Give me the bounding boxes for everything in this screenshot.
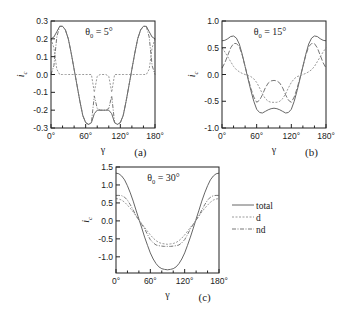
x-axis-label: γ bbox=[164, 289, 170, 300]
y-tick-label: -0.5 bbox=[204, 96, 219, 106]
panel-label: (b) bbox=[305, 146, 318, 159]
x-tick-label: 120° bbox=[112, 131, 130, 141]
series-total-line bbox=[116, 173, 219, 270]
y-tick-label: 0.0 bbox=[36, 70, 48, 80]
y-tick-label: 0.1 bbox=[36, 52, 48, 62]
series-d-line bbox=[116, 199, 219, 245]
y-axis-label: ic bbox=[186, 72, 199, 78]
y-tick-label: -0.3 bbox=[33, 123, 48, 133]
x-tick-label: 0° bbox=[112, 276, 120, 286]
x-axis-label: γ bbox=[100, 144, 106, 155]
y-tick-label: 0.2 bbox=[36, 34, 48, 44]
series-nd-line bbox=[116, 195, 219, 246]
series-total-line bbox=[222, 36, 326, 113]
y-axis-label: ic bbox=[80, 217, 93, 223]
panel-label: (c) bbox=[198, 291, 211, 304]
panel-label: (a) bbox=[134, 146, 147, 159]
y-tick-label: 0.0 bbox=[101, 216, 113, 226]
y-tick-label: 0.3 bbox=[36, 16, 48, 26]
x-axis-label: γ bbox=[271, 144, 277, 155]
x-tick-label: 180° bbox=[146, 131, 164, 141]
x-tick-label: 0° bbox=[218, 131, 226, 141]
series-d-line bbox=[222, 48, 326, 103]
y-tick-label: 1.0 bbox=[207, 16, 219, 26]
x-tick-label: 0° bbox=[47, 131, 55, 141]
x-tick-label: 60° bbox=[79, 131, 92, 141]
x-tick-label: 120° bbox=[176, 276, 194, 286]
legend: totaldnd bbox=[232, 201, 273, 235]
x-tick-label: 120° bbox=[283, 131, 301, 141]
theta-annotation: θ0 = 30° bbox=[147, 172, 180, 185]
x-tick-label: 60° bbox=[144, 276, 157, 286]
theta-annotation: θ0 = 5° bbox=[85, 26, 113, 39]
legend-label-total: total bbox=[256, 201, 273, 211]
y-tick-label: -0.5 bbox=[98, 234, 113, 244]
panel-a-chart: 0°60°120°180°-0.3-0.2-0.10.00.10.20.3θ0 … bbox=[15, 16, 164, 159]
x-tick-label: 180° bbox=[210, 276, 228, 286]
theta-annotation: θ0 = 15° bbox=[254, 26, 287, 39]
y-tick-label: -1.0 bbox=[204, 123, 219, 133]
y-tick-label: -0.2 bbox=[33, 105, 48, 115]
y-tick-label: 0.0 bbox=[207, 70, 219, 80]
series-nd-line bbox=[51, 26, 155, 124]
panel-c-chart: 0°60°120°180°-1.0-0.50.00.51.01.5θ0 = 30… bbox=[80, 162, 228, 304]
x-tick-label: 180° bbox=[317, 131, 335, 141]
y-axis-label: ic bbox=[15, 72, 28, 78]
y-tick-label: 0.5 bbox=[101, 198, 113, 208]
plot-frame bbox=[222, 21, 326, 128]
series-total-line bbox=[51, 26, 155, 124]
series-d-line bbox=[51, 39, 155, 93]
x-tick-label: 60° bbox=[250, 131, 263, 141]
y-tick-label: -1.0 bbox=[98, 252, 113, 262]
y-tick-label: -0.1 bbox=[33, 87, 48, 97]
panel-b-chart: 0°60°120°180°-1.0-0.50.00.51.0θ0 = 15°γi… bbox=[186, 16, 335, 159]
figure: 0°60°120°180°-0.3-0.2-0.10.00.10.20.3θ0 … bbox=[0, 0, 347, 319]
series-nd-line bbox=[222, 44, 326, 103]
y-tick-label: 0.5 bbox=[207, 43, 219, 53]
y-tick-label: 1.5 bbox=[101, 162, 113, 172]
y-tick-label: 1.0 bbox=[101, 180, 113, 190]
legend-label-d: d bbox=[256, 213, 261, 223]
legend-label-nd: nd bbox=[256, 225, 266, 235]
